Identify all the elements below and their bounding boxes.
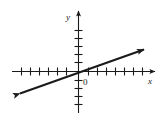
- graph-figure: y x 0: [0, 0, 164, 121]
- coordinate-plane-svg: y x 0: [0, 0, 164, 121]
- y-axis: [75, 11, 83, 113]
- y-axis-label: y: [65, 12, 70, 22]
- origin-label: 0: [83, 77, 88, 87]
- x-axis-label: x: [147, 76, 152, 86]
